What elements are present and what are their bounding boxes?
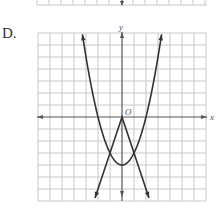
x-axis-label: x (209, 112, 214, 122)
origin-label: O (125, 107, 132, 117)
coordinate-graph: y x O (0, 0, 218, 209)
y-axis-label: y (118, 22, 123, 32)
y-axis-down-arrow-icon (120, 191, 124, 197)
